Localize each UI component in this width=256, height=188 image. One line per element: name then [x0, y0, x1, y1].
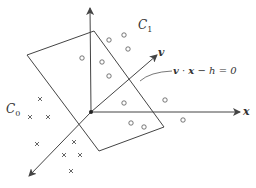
cross-point [38, 97, 42, 101]
circle-point [181, 118, 185, 122]
circle-point [107, 74, 111, 78]
circle-point [122, 101, 126, 105]
cross-point [69, 169, 73, 173]
circle-point [100, 60, 104, 64]
circle-point [122, 33, 126, 37]
cross-point [46, 115, 50, 119]
origin-point [89, 110, 93, 114]
plane-equation-label: v · x − h = 0 [173, 65, 237, 76]
x-axis-label: x [242, 105, 250, 118]
class-c0-label: C0 [6, 102, 20, 118]
circle-point [129, 121, 133, 125]
y-axis [90, 8, 91, 112]
circle-point [107, 38, 111, 42]
circle-point [142, 125, 146, 129]
hyperplane [27, 31, 164, 151]
class-c0-points [28, 97, 82, 173]
circle-point [126, 47, 130, 51]
circle-point [163, 98, 167, 102]
class-c1-points [80, 33, 185, 129]
vector-v-label: v [158, 46, 165, 59]
cross-point [72, 140, 76, 144]
diagram-canvas: C1 C0 v x v · x − h = 0 [0, 0, 256, 188]
cross-point [78, 153, 82, 157]
circle-point [80, 56, 84, 60]
class-c1-label: C1 [138, 18, 152, 34]
cross-point [35, 142, 39, 146]
z-axis [29, 112, 91, 176]
cross-point [28, 115, 32, 119]
equation-callout-curve [140, 71, 172, 81]
cross-point [62, 153, 66, 157]
